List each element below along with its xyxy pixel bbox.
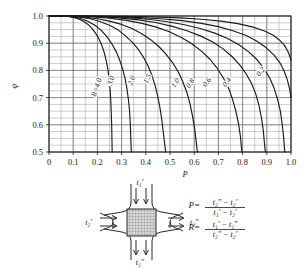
exchanger-core	[127, 209, 156, 236]
x-tick-label: 0.4	[140, 157, 151, 167]
flow-arrows-bottom	[134, 240, 149, 255]
x-tick-label: 0.9	[261, 157, 272, 167]
x-tick-label: 0.5	[165, 157, 176, 167]
y-tick-label: 0.9	[32, 38, 43, 48]
y-tick-label: 0.7	[32, 93, 43, 103]
formula-p-denominator: t₁′ − t₂′	[214, 208, 237, 217]
diagram-label-inlet-left: t₂′	[85, 218, 92, 227]
y-tick-label: 0.8	[32, 65, 43, 75]
flow-arrows-top	[134, 188, 149, 204]
figure-container: R=4.0R=4.03.03.02.02.01.51.51.01.00.80.8…	[0, 0, 306, 268]
x-tick-label: 0	[47, 157, 51, 167]
y-axis-title: ψ	[9, 83, 19, 89]
crossflow-heat-exchanger-diagram: t₁′ t₁″ t₂′ t₂″	[85, 178, 199, 267]
x-axis-ticks: 00.10.20.30.40.50.60.70.80.91.0	[47, 152, 296, 167]
chart-and-diagram: R=4.0R=4.03.03.02.02.01.51.51.01.00.80.8…	[0, 0, 306, 268]
x-tick-label: 0.6	[189, 157, 200, 167]
y-axis-ticks: 0.50.60.70.80.91.0	[32, 11, 49, 157]
x-axis-title: P	[181, 169, 187, 179]
diagram-label-outlet-bottom: t₁″	[136, 258, 145, 267]
x-tick-label: 1.0	[286, 157, 297, 167]
x-tick-label: 0.1	[68, 157, 79, 167]
formula-p-lhs: P=	[187, 200, 200, 210]
x-tick-label: 0.7	[213, 157, 224, 167]
formula-p-numerator: t₂″ − t₂′	[213, 198, 238, 207]
y-tick-label: 0.5	[32, 147, 43, 157]
diagram-label-inlet-top: t₁′	[137, 178, 144, 187]
y-tick-label: 1.0	[32, 11, 43, 21]
formula-r-lhs: R=	[187, 222, 200, 232]
y-tick-label: 0.6	[32, 120, 43, 130]
x-tick-label: 0.8	[237, 157, 248, 167]
x-tick-label: 0.2	[92, 157, 103, 167]
formula-r-denominator: t₂″ − t₂′	[213, 230, 238, 239]
x-tick-label: 0.3	[116, 157, 127, 167]
flow-arrows-left	[100, 216, 117, 229]
formula-r-numerator: t₁′ − t₁″	[213, 220, 238, 229]
